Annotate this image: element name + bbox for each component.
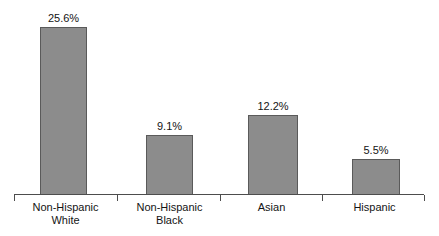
x-axis-label-line: Asian — [223, 201, 320, 214]
x-axis-line — [14, 194, 424, 195]
x-axis-label-line: Non-Hispanic — [120, 201, 219, 214]
x-axis-label-line: Non-Hispanic — [16, 201, 115, 214]
bar-hispanic — [352, 159, 400, 195]
x-axis-label-asian: Asian — [223, 201, 320, 214]
x-axis-label-line: White — [16, 214, 115, 227]
x-axis-tick — [117, 195, 118, 201]
x-axis-tick — [322, 195, 323, 201]
value-label-non-hispanic-black: 9.1% — [133, 120, 206, 132]
x-axis-tick — [424, 195, 425, 201]
x-axis-tick — [220, 195, 221, 201]
value-label-hispanic: 5.5% — [339, 144, 413, 156]
x-axis-label-hispanic: Hispanic — [326, 201, 423, 214]
x-axis-label-non-hispanic-white: Non-Hispanic White — [16, 201, 115, 227]
bar-chart: 25.6% 9.1% 12.2% 5.5% Non-Hispanic White… — [0, 0, 439, 236]
plot-area: 25.6% 9.1% 12.2% 5.5% Non-Hispanic White… — [0, 0, 439, 236]
value-label-non-hispanic-white: 25.6% — [27, 12, 100, 24]
bar-non-hispanic-white — [40, 27, 87, 195]
bar-asian — [248, 115, 298, 195]
x-axis-label-non-hispanic-black: Non-Hispanic Black — [120, 201, 219, 227]
x-axis-label-line: Black — [120, 214, 219, 227]
x-axis-tick — [14, 195, 15, 201]
value-label-asian: 12.2% — [235, 100, 311, 112]
x-axis-label-line: Hispanic — [326, 201, 423, 214]
bar-non-hispanic-black — [146, 135, 193, 195]
